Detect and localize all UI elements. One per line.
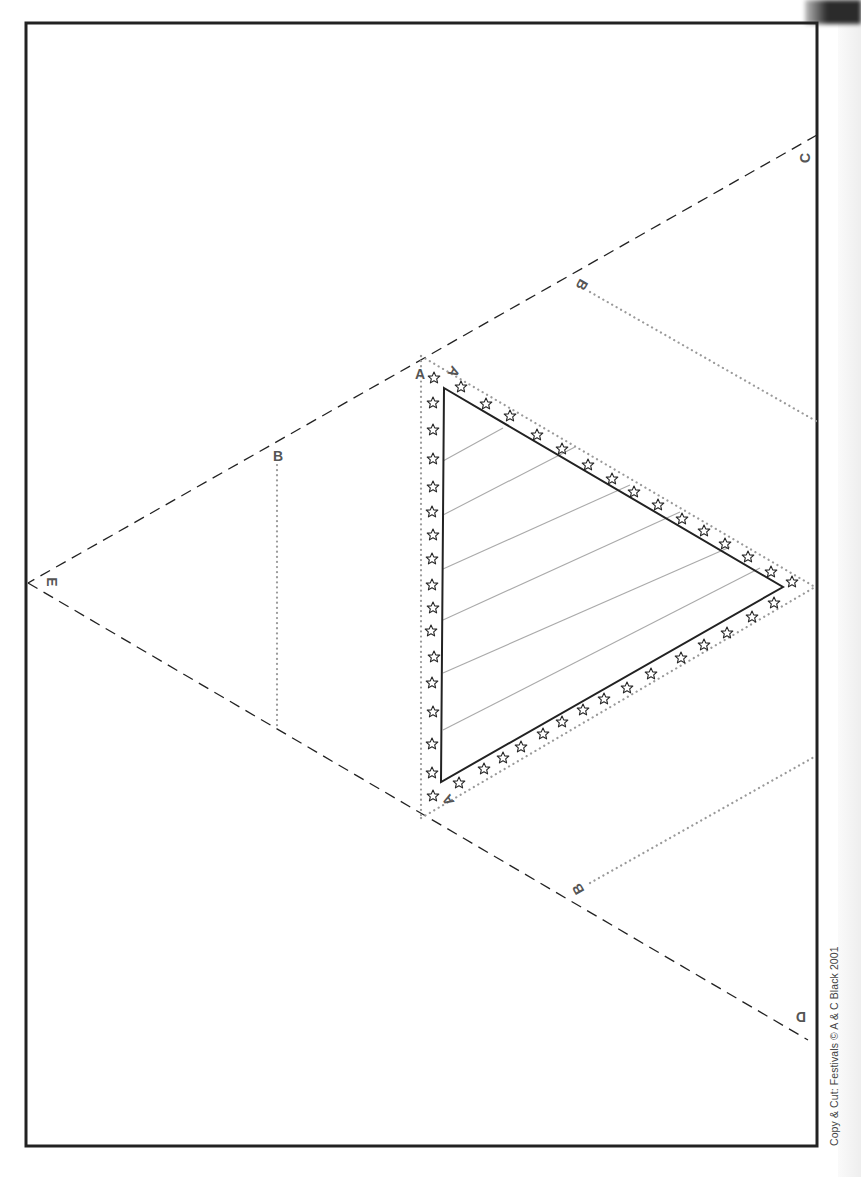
main-triangle <box>441 388 783 782</box>
label-d: D <box>796 1009 806 1025</box>
label-b-top: B <box>573 277 592 294</box>
page-border <box>26 23 817 1146</box>
cut-line-upper <box>28 135 817 583</box>
label-a-bottom: A <box>439 792 458 809</box>
label-a-top-right: A <box>445 364 464 381</box>
label-b-left: B <box>273 448 283 464</box>
label-b-bottom: B <box>569 881 588 898</box>
label-c: C <box>797 153 813 163</box>
copyright-notice: Copy & Cut: Festivals © A & C Black 2001 <box>828 946 840 1146</box>
stars-upper-edge <box>455 381 798 587</box>
worksheet-page: C D E A A A B B B Copy & Cut: Festivals … <box>0 0 861 1177</box>
cut-line-lower <box>28 583 808 1040</box>
stars-left-edge <box>425 372 440 801</box>
flap-fold-lines <box>277 292 816 883</box>
fold-triangle <box>421 356 815 818</box>
label-e: E <box>44 577 60 586</box>
label-a-top-left: A <box>415 366 425 382</box>
template-drawing: C D E A A A B B B <box>0 0 861 1177</box>
stars-lower-edge <box>453 597 780 788</box>
